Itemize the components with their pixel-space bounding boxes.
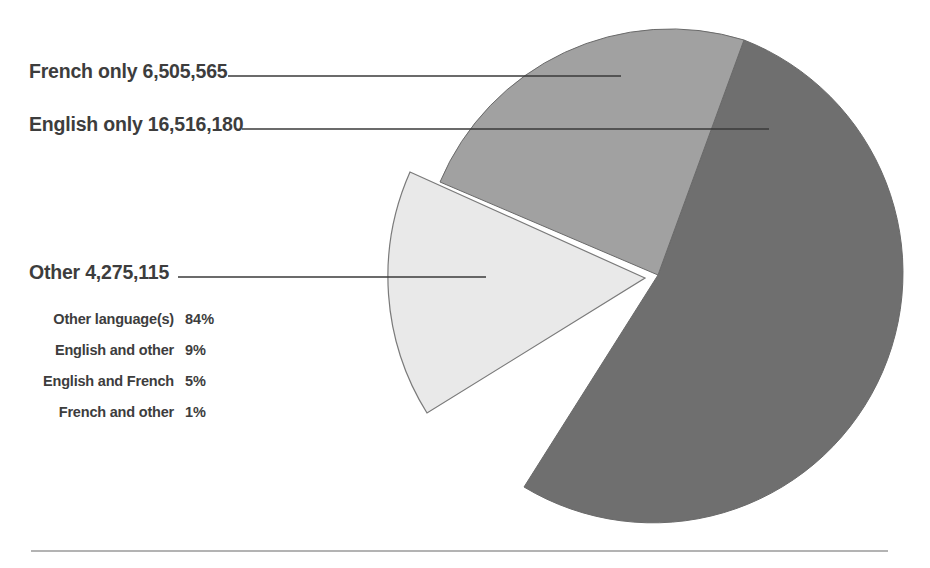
breakdown-value-3: 1% xyxy=(185,396,229,427)
breakdown-label-3: French and other xyxy=(29,396,185,427)
pie-chart-figure: French only 6,505,565 English only 16,51… xyxy=(0,0,930,568)
callout-label-french-only: French only 6,505,565 xyxy=(29,60,227,83)
pie-chart-svg xyxy=(0,0,930,568)
table-row: Other language(s) 84% xyxy=(29,303,229,334)
table-row: French and other 1% xyxy=(29,396,229,427)
table-row: English and other 9% xyxy=(29,334,229,365)
table-row: English and French 5% xyxy=(29,365,229,396)
other-breakdown-table: Other language(s) 84% English and other … xyxy=(29,303,229,427)
breakdown-label-2: English and French xyxy=(29,365,185,396)
breakdown-value-2: 5% xyxy=(185,365,229,396)
other-breakdown-body: Other language(s) 84% English and other … xyxy=(29,303,229,427)
callout-label-english-only: English only 16,516,180 xyxy=(29,113,243,136)
breakdown-label-0: Other language(s) xyxy=(29,303,185,334)
breakdown-value-0: 84% xyxy=(185,303,229,334)
callout-label-other: Other 4,275,115 xyxy=(29,261,169,284)
breakdown-value-1: 9% xyxy=(185,334,229,365)
breakdown-label-1: English and other xyxy=(29,334,185,365)
